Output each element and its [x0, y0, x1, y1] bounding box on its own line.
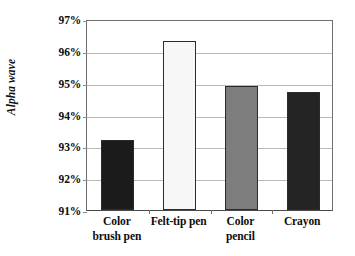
bar [101, 140, 134, 210]
x-axis-category-label-line: brush pen [80, 229, 154, 244]
y-axis-tick-label: 92% [33, 173, 81, 185]
x-axis-category-label-line: pencil [204, 229, 278, 244]
y-axis-tick-mark [83, 148, 87, 149]
plot-area [86, 20, 333, 211]
y-axis-tick-mark [83, 117, 87, 118]
y-axis-tick-mark [83, 21, 87, 22]
bar [225, 86, 258, 210]
y-axis-tick-label: 97% [33, 14, 81, 26]
bars-layer [87, 21, 332, 210]
y-axis-title: Alpha wave [5, 42, 23, 132]
y-axis-tick-label: 93% [33, 141, 81, 153]
x-axis-category-label: Crayon [265, 214, 339, 229]
y-axis-tick-mark [83, 180, 87, 181]
x-axis-category-label-line: Crayon [265, 214, 339, 229]
y-axis-tick-label: 91% [33, 205, 81, 217]
bar [287, 92, 320, 210]
x-axis-category-labels: Colorbrush penFelt-tip penColorpencilCra… [86, 214, 333, 254]
y-axis-tick-mark [83, 212, 87, 213]
y-axis-tick-label: 94% [33, 110, 81, 122]
y-axis-tick-label: 95% [33, 78, 81, 90]
y-axis-tick-label: 96% [33, 46, 81, 58]
bar-chart-figure: Alpha wave 97%96%95%94%93%92%91% Colorbr… [0, 0, 355, 256]
y-axis-tick-labels: 97%96%95%94%93%92%91% [33, 20, 85, 212]
y-axis-tick-mark [83, 53, 87, 54]
bar [163, 41, 196, 210]
y-axis-tick-mark [83, 85, 87, 86]
